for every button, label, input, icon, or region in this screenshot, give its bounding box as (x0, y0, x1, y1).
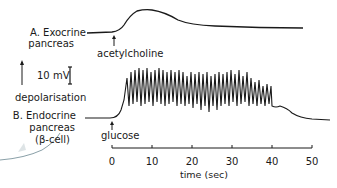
tick-label-0: 0 (109, 156, 115, 167)
tick-label-50: 50 (306, 156, 319, 167)
tick-label-20: 20 (186, 156, 199, 167)
acetylcholine-label: acetylcholine (97, 48, 163, 59)
tick-label-10: 10 (146, 156, 159, 167)
tick-label-40: 40 (266, 156, 279, 167)
axis-label: time (sec) (180, 169, 228, 180)
scale-voltage-label: 10 mV (37, 70, 70, 81)
tick-label-30: 30 (226, 156, 239, 167)
trace-exocrine (87, 10, 303, 33)
time-axis (112, 145, 312, 148)
panel-a-label-line1: A. Exocrine (30, 27, 86, 38)
panel-b-label-line2: pancreas (29, 122, 75, 133)
depolarisation-label: depolarisation (15, 92, 86, 103)
panel-b-label-line3: (β-cell) (35, 134, 70, 145)
panel-b-label-line1: B. Endocrine (13, 110, 76, 121)
panel-a-label-line2: pancreas (28, 38, 74, 49)
glucose-label: glucose (101, 130, 139, 141)
trace-endocrine (85, 68, 330, 120)
